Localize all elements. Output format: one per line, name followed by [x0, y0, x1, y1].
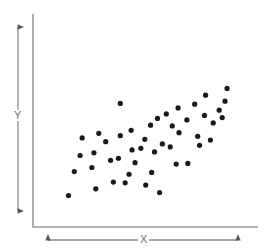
data-point [185, 161, 190, 166]
data-point [152, 149, 157, 154]
x-axis-label: X [138, 234, 149, 245]
data-point [157, 190, 162, 195]
data-point [202, 113, 207, 118]
data-point [220, 115, 225, 120]
data-point [89, 165, 94, 170]
data-point [208, 137, 213, 142]
data-point [66, 193, 71, 198]
plot-canvas [0, 0, 266, 252]
scatter-plot-figure: Y X [0, 0, 266, 252]
data-point [142, 137, 147, 142]
data-point [93, 186, 98, 191]
data-point [118, 101, 123, 106]
data-point [160, 141, 165, 146]
data-point [192, 102, 197, 107]
data-point [175, 105, 180, 110]
scatter-points-group [66, 86, 230, 198]
data-point [118, 133, 123, 138]
data-point [164, 111, 169, 116]
data-point [211, 120, 216, 125]
data-point [108, 158, 113, 163]
data-point [116, 156, 121, 161]
data-point [132, 160, 137, 165]
data-point [143, 183, 148, 188]
data-point [126, 172, 131, 177]
data-point [91, 150, 96, 155]
data-point [80, 135, 85, 140]
data-point [149, 170, 154, 175]
data-point [138, 146, 143, 151]
data-point [203, 93, 208, 98]
data-point [129, 147, 134, 152]
data-point [197, 143, 202, 148]
y-axis-label: Y [12, 110, 23, 121]
data-point [111, 180, 116, 185]
data-point [129, 128, 134, 133]
data-point [217, 108, 222, 113]
data-point [168, 144, 173, 149]
data-point [96, 131, 101, 136]
data-point [77, 153, 82, 158]
data-point [103, 139, 108, 144]
data-point [184, 117, 189, 122]
data-point [170, 123, 175, 128]
data-point [174, 161, 179, 166]
data-point [224, 86, 229, 91]
data-point [148, 123, 153, 128]
data-point [123, 180, 128, 185]
data-point [195, 134, 200, 139]
data-point [72, 169, 77, 174]
data-point [155, 116, 160, 121]
data-point [176, 130, 181, 135]
data-point [222, 99, 227, 104]
